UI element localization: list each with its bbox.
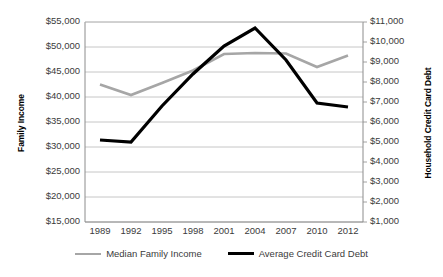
legend-swatch-icon bbox=[228, 252, 254, 255]
legend-item[interactable]: Average Credit Card Debt bbox=[228, 248, 368, 259]
legend-label: Median Family Income bbox=[106, 248, 202, 259]
legend-label: Average Credit Card Debt bbox=[259, 248, 368, 259]
chart-legend: Median Family IncomeAverage Credit Card … bbox=[0, 248, 443, 259]
plot-area bbox=[0, 0, 443, 277]
chart-container: Family Income Household Credit Card Debt… bbox=[0, 0, 443, 277]
legend-item[interactable]: Median Family Income bbox=[75, 248, 202, 259]
legend-swatch-icon bbox=[75, 253, 101, 255]
